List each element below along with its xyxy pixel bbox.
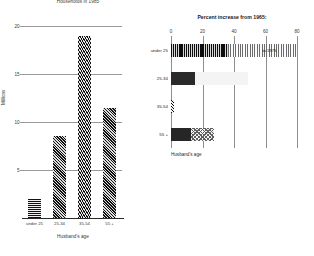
right-chart-bar-row: 35-54 [171, 100, 305, 113]
left-chart-x-axis-label: Husband's age [22, 234, 124, 239]
right-chart-category-label: 35-54 [157, 100, 168, 113]
right-chart-bar-segment [171, 128, 191, 141]
left-chart-bar [103, 108, 116, 218]
left-chart-y-tick-mark [20, 170, 22, 171]
left-chart-bar [78, 36, 91, 218]
right-chart-bar-segment [191, 128, 213, 141]
left-chart-y-tick-label: 15 [14, 72, 19, 77]
left-chart-gridline [22, 26, 122, 27]
right-chart-title: Percent increase from 1965: [150, 14, 314, 20]
right-chart-bar-segment [171, 100, 174, 113]
right-chart-x-tick-label: 0 [170, 29, 173, 34]
left-chart-y-tick-label: 5 [17, 168, 20, 173]
left-chart-bar [53, 136, 66, 218]
right-chart-bar-row: 25-34 [171, 72, 305, 85]
right-chart-bar-row: 55 + [171, 128, 305, 141]
left-chart-title: Households in 1985 [8, 0, 148, 4]
left-chart-y-tick-label: 20 [14, 24, 19, 29]
left-chart-x-tick-label: 25-34 [47, 221, 73, 226]
left-chart-x-tick-label: under 25 [22, 221, 48, 226]
households-bar-chart: Households in 1985 Millions 5101520 Husb… [0, 0, 150, 256]
right-chart-bar-segment [195, 72, 249, 85]
left-chart-y-tick-mark [20, 26, 22, 27]
right-chart-category-label: 55 + [159, 128, 168, 141]
left-chart-x-tick-label: 55 + [97, 221, 123, 226]
right-chart-x-tick-label: 80 [295, 29, 300, 34]
right-chart-category-label: 25-34 [157, 72, 168, 85]
left-chart-x-axis-line [22, 218, 124, 219]
left-chart-y-tick-mark [20, 74, 22, 75]
right-chart-bar-segment [171, 72, 195, 85]
left-chart-bar [28, 199, 41, 218]
left-chart-y-axis-label: Millions [1, 90, 6, 105]
right-chart-x-tick-label: 40 [231, 29, 236, 34]
left-chart-y-tick-mark [20, 122, 22, 123]
right-chart-x-axis-label: Husband's age [171, 152, 202, 157]
left-chart-y-tick-label: 10 [14, 120, 19, 125]
percent-increase-bar-chart: Percent increase from 1965: 020406080und… [150, 0, 314, 256]
right-chart-x-tick-label: 60 [263, 29, 268, 34]
right-chart-bar-row: under 25 [171, 44, 305, 57]
left-chart-plot-area: 5101520 [22, 26, 122, 218]
right-chart-bar-segment [171, 44, 228, 57]
left-chart-x-tick-label: 35-54 [72, 221, 98, 226]
right-chart-plot-area: 020406080under 2525-3435-5455 +to 1975 [171, 36, 305, 148]
right-chart-annotation: to 1975 [262, 48, 276, 53]
right-chart-category-label: under 25 [151, 44, 168, 57]
right-chart-x-tick-label: 20 [200, 29, 205, 34]
left-chart-gridline [22, 74, 122, 75]
